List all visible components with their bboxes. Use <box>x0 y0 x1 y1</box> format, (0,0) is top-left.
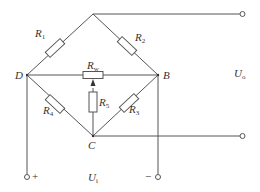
label-plus: + <box>32 171 38 182</box>
resistor-r1-icon <box>45 39 64 58</box>
label-output-voltage: Uo <box>234 68 245 81</box>
label-minus: − <box>145 171 151 182</box>
wheatstone-bridge-diagram: R1 R2 R3 R4 R5 Rw D B C Uo Ui + − <box>0 0 260 192</box>
label-rw: Rw <box>87 60 99 73</box>
terminal-input-minus <box>156 175 161 180</box>
node-c-dot <box>92 135 94 137</box>
terminal-output-top <box>240 12 245 17</box>
label-input-voltage: Ui <box>88 172 98 185</box>
label-r1: R1 <box>35 28 45 41</box>
label-r2: R2 <box>135 32 145 45</box>
label-r4: R4 <box>43 105 53 118</box>
label-node-d: D <box>15 70 23 81</box>
wiper-arrow-icon <box>91 79 96 86</box>
node-b-dot <box>157 74 159 76</box>
label-r3: R3 <box>129 104 139 117</box>
node-d-dot <box>26 74 28 76</box>
resistor-r5-icon <box>89 92 97 112</box>
label-node-c: C <box>88 140 95 151</box>
label-node-b: B <box>163 70 170 81</box>
resistor-r2-icon <box>117 37 136 56</box>
terminal-output-bottom <box>240 134 245 139</box>
label-r5: R5 <box>99 97 109 110</box>
terminal-input-plus <box>25 175 30 180</box>
